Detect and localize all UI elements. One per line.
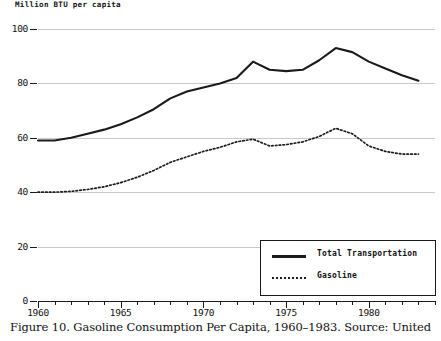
x-tick-1963 — [88, 301, 89, 305]
x-tick-1969 — [187, 301, 188, 305]
x-tick-1981 — [385, 301, 386, 305]
legend-item-total-transportation: Total Transportation — [261, 245, 435, 267]
x-tick-1964 — [104, 301, 105, 305]
x-tick-1968 — [170, 301, 171, 305]
y-tick-label-60: 60 — [0, 132, 28, 143]
x-tick-1962 — [71, 301, 72, 305]
y-tick-mark-0 — [30, 301, 37, 302]
gridline-40 — [38, 192, 435, 193]
x-tick-1966 — [137, 301, 138, 305]
legend-item-gasoline: Gasoline — [261, 267, 435, 289]
gridline-60 — [38, 138, 435, 139]
gridline-80 — [38, 83, 435, 84]
y-tick-mark-80 — [30, 83, 37, 84]
y-tick-label-20: 20 — [0, 241, 28, 252]
x-tick-1979 — [352, 301, 353, 305]
x-tick-1984 — [435, 301, 436, 305]
x-tick-1974 — [270, 301, 271, 305]
x-tick-1972 — [237, 301, 238, 305]
x-tick-1978 — [336, 301, 337, 305]
x-tick-1971 — [220, 301, 221, 305]
y-axis-title: Million BTU per capita — [15, 0, 121, 9]
x-tick-1967 — [154, 301, 155, 305]
x-tick-1973 — [253, 301, 254, 305]
x-tick-1961 — [55, 301, 56, 305]
y-tick-mark-20 — [30, 247, 37, 248]
legend-label-gasoline: Gasoline — [317, 271, 357, 280]
x-tick-1977 — [319, 301, 320, 305]
figure-caption: Figure 10. Gasoline Consumption Per Capi… — [0, 320, 441, 334]
figure-container: Million BTU per capita Total Transportat… — [0, 0, 441, 341]
x-tick-1982 — [402, 301, 403, 305]
legend-label-total-transportation: Total Transportation — [317, 249, 417, 258]
y-tick-label-100: 100 — [0, 23, 28, 34]
x-tick-label-1960: 1960 — [15, 307, 61, 318]
y-tick-mark-60 — [30, 138, 37, 139]
y-tick-label-0: 0 — [0, 295, 28, 306]
gridline-100 — [38, 29, 435, 30]
x-tick-1976 — [303, 301, 304, 305]
y-tick-label-40: 40 — [0, 186, 28, 197]
x-tick-1983 — [418, 301, 419, 305]
legend-swatch-solid — [272, 255, 306, 258]
y-tick-mark-40 — [30, 192, 37, 193]
x-tick-label-1970: 1970 — [180, 307, 226, 318]
legend-swatch-dotted — [272, 277, 306, 279]
x-tick-label-1975: 1975 — [263, 307, 309, 318]
x-tick-label-1965: 1965 — [98, 307, 144, 318]
y-tick-mark-100 — [30, 29, 37, 30]
chart-legend: Total Transportation Gasoline — [260, 240, 436, 296]
x-tick-label-1980: 1980 — [346, 307, 392, 318]
y-tick-label-80: 80 — [0, 77, 28, 88]
